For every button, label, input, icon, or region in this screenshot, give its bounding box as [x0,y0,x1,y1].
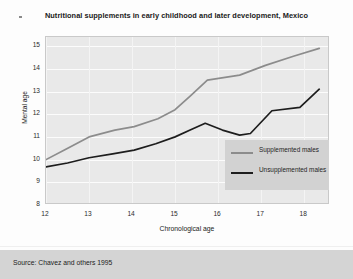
y-tick-label: 10 [18,155,40,162]
footer-bar: Source: Chavez and others 1995 [0,250,353,279]
chart-figure: Nutritional supplements in early childho… [0,0,353,279]
x-tick-label: 17 [249,210,271,217]
y-tick-label: 13 [18,87,40,94]
chart-title: Nutritional supplements in early childho… [0,11,353,20]
x-tick-label: 13 [77,210,99,217]
x-tick-label: 15 [163,210,185,217]
legend-label-supplemented: Supplemented males [259,146,329,154]
footer-divider [0,246,353,247]
y-tick-label: 11 [18,132,40,139]
x-axis-title: Chronological age [45,225,329,232]
x-tick-label: 12 [34,210,56,217]
y-tick-label: 12 [18,109,40,116]
x-tick-label: 18 [292,210,314,217]
x-tick-label: 14 [120,210,142,217]
x-tick-label: 16 [206,210,228,217]
y-tick-label: 14 [18,64,40,71]
legend-item-supplemented: Supplemented males [231,148,327,168]
legend-swatch-unsupplemented [231,172,253,174]
y-tick-label: 9 [18,177,40,184]
source-note: Source: Chavez and others 1995 [13,259,112,266]
legend-item-unsupplemented: Unsupplemented males [231,168,327,188]
y-tick-label: 15 [18,41,40,48]
legend-swatch-supplemented [231,152,253,154]
y-tick-label: 8 [18,200,40,207]
legend-label-unsupplemented: Unsupplemented males [259,166,329,174]
chart-legend: Supplemented males Unsupplemented males [225,140,329,190]
